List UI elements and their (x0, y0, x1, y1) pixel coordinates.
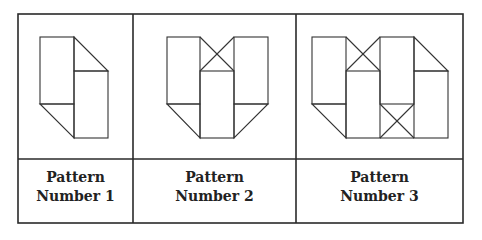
pattern-2-figure (167, 37, 268, 138)
label-line-1: Pattern (296, 168, 463, 187)
label-line-2: Number 2 (133, 187, 296, 206)
pattern-3-figure (312, 37, 448, 138)
label-line-2: Number 3 (296, 187, 463, 206)
pattern-3-label: Pattern Number 3 (296, 168, 463, 212)
pattern-2-label: Pattern Number 2 (133, 168, 296, 212)
pattern-1-figure (40, 37, 108, 138)
label-line-1: Pattern (18, 168, 133, 187)
pattern-1-label: Pattern Number 1 (18, 168, 133, 212)
label-line-1: Pattern (133, 168, 296, 187)
label-line-2: Number 1 (18, 187, 133, 206)
